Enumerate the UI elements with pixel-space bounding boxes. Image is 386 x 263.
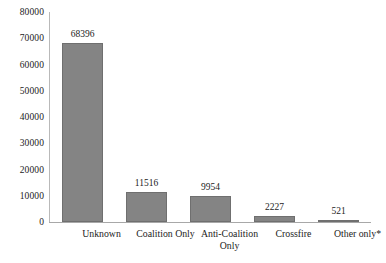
bar — [190, 196, 231, 222]
bar-value-label: 9954 — [180, 182, 241, 193]
bar-value-label: 2227 — [244, 202, 305, 213]
bar-value-label: 68396 — [52, 29, 113, 40]
x-axis-category-labels: Unknown Coalition Only Anti-Coalition On… — [49, 226, 371, 262]
bar-value-label: 521 — [308, 206, 369, 217]
bar — [318, 220, 359, 222]
bar — [254, 216, 295, 222]
bar-value-label: 11516 — [116, 178, 177, 189]
bar — [62, 43, 103, 223]
x-tick-label-other-only: Other only* — [318, 228, 386, 240]
bar — [126, 192, 167, 222]
